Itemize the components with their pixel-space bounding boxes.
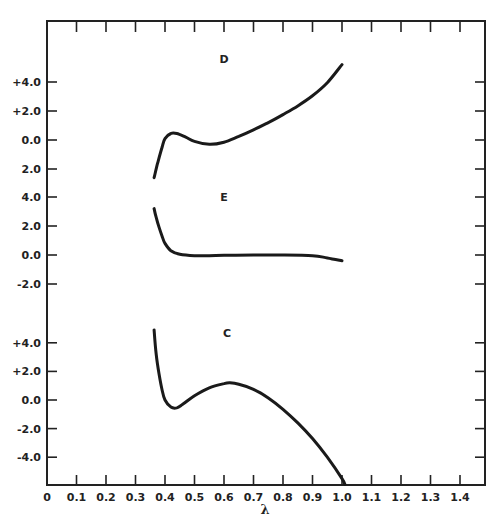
y-tick-label: +2.0 xyxy=(12,365,41,378)
curve-label-e: E xyxy=(220,191,228,204)
x-tick-label: 1.2 xyxy=(391,491,411,504)
x-tick-label: 0.3 xyxy=(126,491,146,504)
y-tick-label: 0.0 xyxy=(22,134,42,147)
y-tick-label: 2.0 xyxy=(22,220,42,233)
x-tick-label: 1.4 xyxy=(450,491,470,504)
x-tick-label: 0.5 xyxy=(185,491,205,504)
x-tick-label: 1.3 xyxy=(421,491,441,504)
y-tick-label: -4.0 xyxy=(17,451,41,464)
x-tick-label: 1.1 xyxy=(362,491,382,504)
x-tick-label: 0.8 xyxy=(273,491,293,504)
y-tick-label: -2.0 xyxy=(17,423,41,436)
x-tick-label: 0.2 xyxy=(96,491,116,504)
curve-d xyxy=(154,65,342,178)
x-tick-label: 1.0 xyxy=(332,491,352,504)
y-axis-ticks: +4.0+2.00.02.04.02.00.0-2.0+4.0+2.00.0-2… xyxy=(12,76,485,464)
plot-border xyxy=(47,21,485,485)
y-tick-label: 0.0 xyxy=(22,249,42,262)
x-tick-label: 0 xyxy=(43,491,51,504)
curve-e xyxy=(154,209,342,261)
y-tick-label: +4.0 xyxy=(12,76,41,89)
plot-frame xyxy=(47,21,485,485)
x-tick-label: 0.1 xyxy=(67,491,87,504)
x-tick-label: 0.6 xyxy=(214,491,234,504)
y-tick-label: -2.0 xyxy=(17,278,41,291)
y-tick-label: 4.0 xyxy=(22,191,42,204)
x-axis-ticks: 00.10.20.30.40.50.60.70.80.91.01.11.21.3… xyxy=(43,21,470,504)
chart: 00.10.20.30.40.50.60.70.80.91.01.11.21.3… xyxy=(0,0,496,527)
x-tick-label: 0.4 xyxy=(155,491,175,504)
curve-label-d: D xyxy=(219,53,228,66)
y-tick-label: +4.0 xyxy=(12,337,41,350)
x-tick-label: 0.9 xyxy=(303,491,323,504)
curve-c xyxy=(154,330,345,485)
y-tick-label: 0.0 xyxy=(22,394,42,407)
curve-label-c: C xyxy=(223,327,231,340)
curves: DEC xyxy=(154,53,345,485)
x-axis-label: λ xyxy=(260,502,269,517)
y-tick-label: +2.0 xyxy=(12,105,41,118)
y-tick-label: 2.0 xyxy=(22,163,42,176)
